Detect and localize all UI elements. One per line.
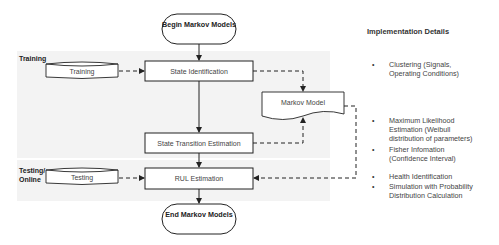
detail-fisher: Fisher Infomation (Confidence Interval) bbox=[389, 145, 499, 163]
detail-mle: Maximum Likelihood Estimation (Weibull d… bbox=[389, 116, 499, 144]
rul-estimation-label: RUL Estimation bbox=[145, 174, 253, 183]
state-transition-label: State Transition Estimation bbox=[145, 139, 253, 148]
detail-line: Health Identification bbox=[389, 172, 499, 181]
bullet-icon: • bbox=[372, 173, 374, 180]
detail-line: Estimation (Weibull bbox=[389, 125, 499, 134]
testing-section-label: Testing/ Online bbox=[19, 166, 45, 184]
detail-line: Simulation with Probability bbox=[389, 182, 499, 191]
begin-label: Begin Markov Models bbox=[162, 20, 236, 29]
detail-health: Health Identification bbox=[389, 172, 499, 181]
training-section-label: Training bbox=[19, 54, 46, 63]
training-datastore-label: Training bbox=[46, 67, 118, 76]
detail-line: Fisher Infomation bbox=[389, 145, 499, 154]
bullet-icon: • bbox=[372, 117, 374, 124]
state-identification-label: State Identification bbox=[145, 67, 253, 76]
end-label: End Markov Models bbox=[162, 210, 236, 219]
markov-model-label: Markov Model bbox=[262, 98, 344, 107]
detail-line: Distribution Calculation bbox=[389, 191, 499, 200]
bullet-icon: • bbox=[372, 61, 374, 68]
detail-line: Operating Conditions) bbox=[389, 69, 499, 78]
detail-line: Maximum Likelihood bbox=[389, 116, 499, 125]
detail-simulation: Simulation with Probability Distribution… bbox=[389, 182, 499, 200]
implementation-title: Implementation Details bbox=[367, 27, 449, 36]
begin-terminator bbox=[162, 14, 236, 44]
end-terminator bbox=[162, 204, 236, 234]
detail-line: distribution of parameters) bbox=[389, 134, 499, 143]
detail-line: Clustering (Signals, bbox=[389, 60, 499, 69]
detail-line: (Confidence Interval) bbox=[389, 154, 499, 163]
bullet-icon: • bbox=[372, 183, 374, 190]
detail-clustering: Clustering (Signals, Operating Condition… bbox=[389, 60, 499, 78]
bullet-icon: • bbox=[372, 146, 374, 153]
testing-datastore-label: Testing bbox=[46, 173, 118, 182]
